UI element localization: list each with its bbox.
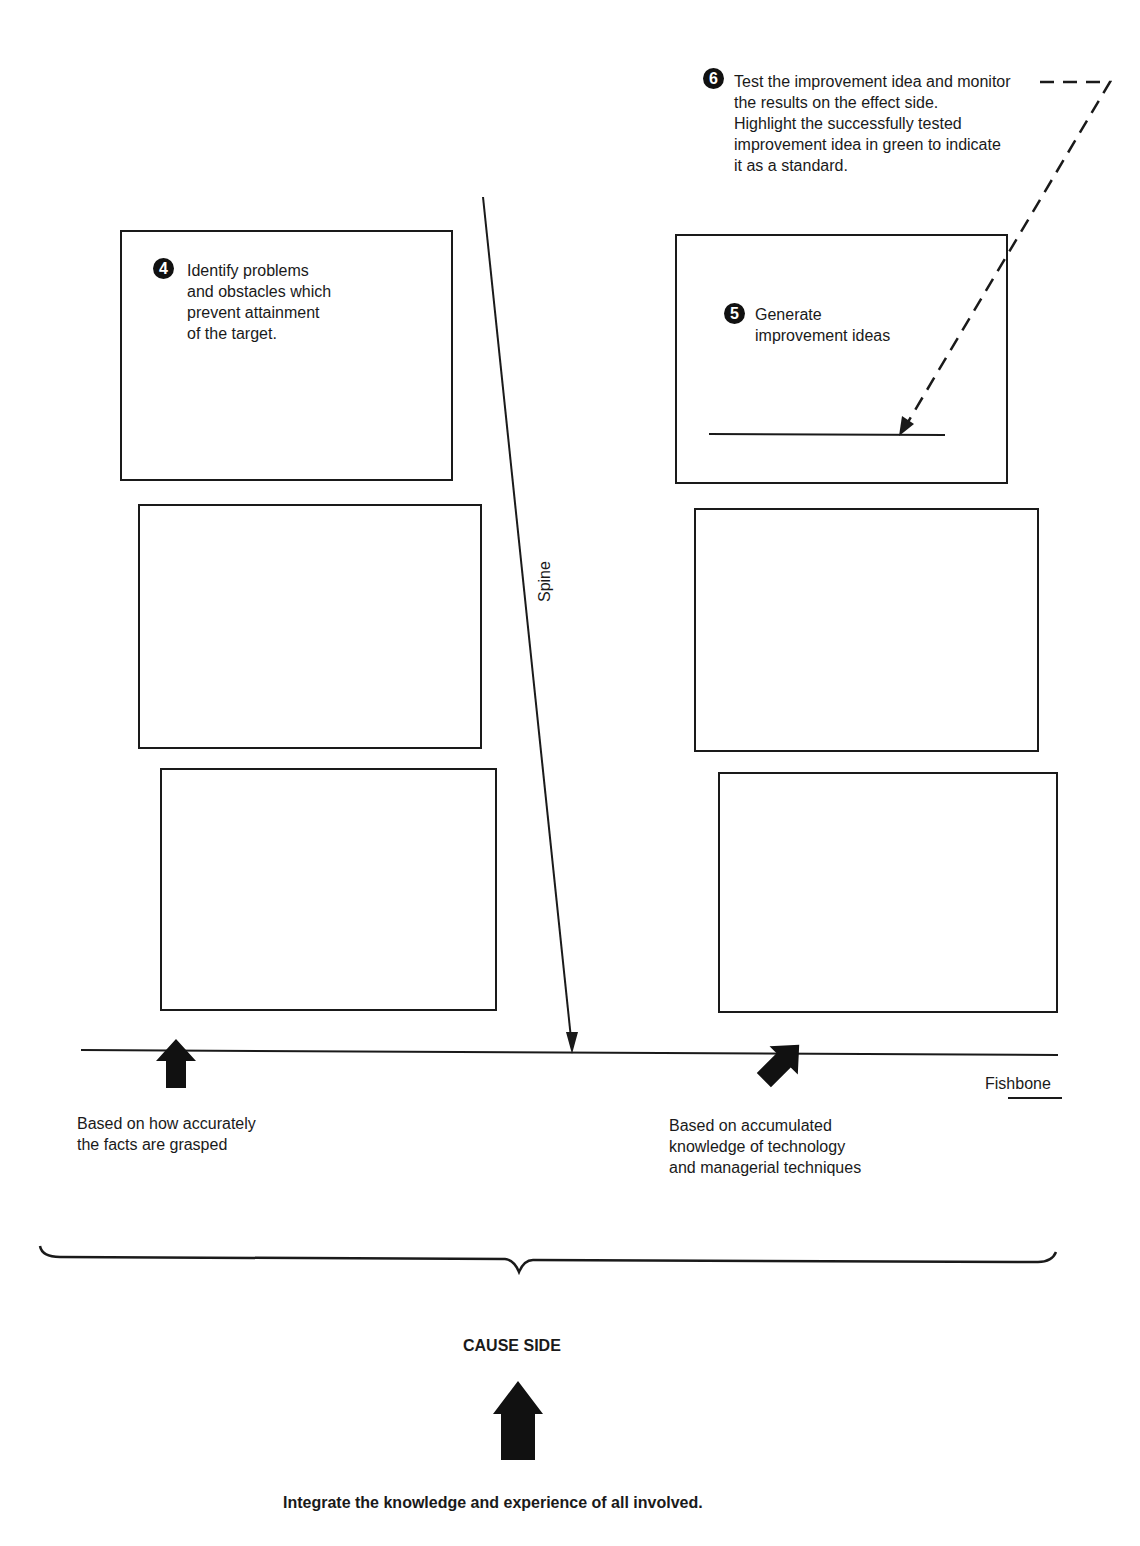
right-note-line: knowledge of technology bbox=[669, 1136, 861, 1157]
idea-line bbox=[709, 434, 945, 435]
fishbone-diagram-canvas bbox=[0, 0, 1140, 1546]
step-6-badge: 6 bbox=[703, 68, 724, 89]
left-note-line: Based on how accurately bbox=[77, 1113, 256, 1134]
dashed-arrowhead-icon bbox=[899, 416, 914, 436]
improvement-box-right-3 bbox=[719, 773, 1057, 1012]
cause-side-label: CAUSE SIDE bbox=[463, 1335, 561, 1356]
step-6-line: improvement idea in green to indicate bbox=[734, 134, 1011, 155]
step-4-line: Identify problems bbox=[187, 260, 331, 281]
right-note-line: Based on accumulated bbox=[669, 1115, 861, 1136]
cause-box-left-3 bbox=[161, 769, 496, 1010]
fishbone-label: Fishbone bbox=[985, 1073, 1051, 1094]
diagonal-arrow-icon bbox=[750, 1031, 814, 1095]
right-note-line: and managerial techniques bbox=[669, 1157, 861, 1178]
step-4-text: Identify problems and obstacles which pr… bbox=[187, 260, 331, 344]
step-4-line: of the target. bbox=[187, 323, 331, 344]
step-6-line: it as a standard. bbox=[734, 155, 1011, 176]
step-6-line: the results on the effect side. bbox=[734, 92, 1011, 113]
left-note-line: the facts are grasped bbox=[77, 1134, 256, 1155]
big-up-arrow-icon bbox=[493, 1381, 543, 1460]
spine-arrowhead-icon bbox=[566, 1032, 578, 1054]
step-4-line: prevent attainment bbox=[187, 302, 331, 323]
left-note: Based on how accurately the facts are gr… bbox=[77, 1113, 256, 1155]
improvement-box-right-2 bbox=[695, 509, 1038, 751]
step-4-line: and obstacles which bbox=[187, 281, 331, 302]
step-5-line: Generate bbox=[755, 304, 890, 325]
cause-side-brace bbox=[40, 1246, 1056, 1272]
step-6-text: Test the improvement idea and monitor th… bbox=[734, 71, 1011, 176]
step-4-badge: 4 bbox=[153, 258, 174, 279]
fishbone-line bbox=[81, 1050, 1058, 1055]
footer-text: Integrate the knowledge and experience o… bbox=[283, 1492, 703, 1513]
cause-box-left-2 bbox=[139, 505, 481, 748]
spine-label: Spine bbox=[536, 561, 554, 602]
up-arrow-icon bbox=[156, 1039, 196, 1088]
step-5-line: improvement ideas bbox=[755, 325, 890, 346]
improvement-box-right-1 bbox=[676, 235, 1007, 483]
step-5-badge: 5 bbox=[724, 303, 745, 324]
step-6-line: Highlight the successfully tested bbox=[734, 113, 1011, 134]
right-note: Based on accumulated knowledge of techno… bbox=[669, 1115, 861, 1178]
step-6-line: Test the improvement idea and monitor bbox=[734, 71, 1011, 92]
step-5-text: Generate improvement ideas bbox=[755, 304, 890, 346]
